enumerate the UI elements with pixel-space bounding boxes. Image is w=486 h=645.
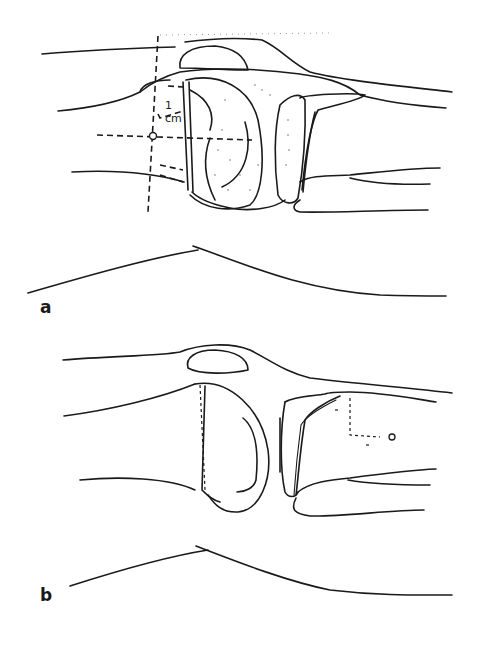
offset-point-icon [389, 434, 395, 440]
reference-point-icon [150, 133, 157, 140]
panel-label-a: a [40, 297, 51, 317]
horizontal-reference-line [97, 135, 252, 140]
panel-b: b [0, 320, 486, 645]
measurement-unit: cm [165, 113, 182, 124]
panel-label-b: b [40, 585, 52, 605]
knee-drawing-a [0, 0, 486, 320]
panel-a: 1 cm a [0, 0, 486, 320]
knee-drawing-b [0, 320, 486, 645]
stipple-texture [214, 84, 289, 190]
vertical-reference-line [148, 36, 158, 212]
measurement-value: 1 [165, 100, 172, 111]
